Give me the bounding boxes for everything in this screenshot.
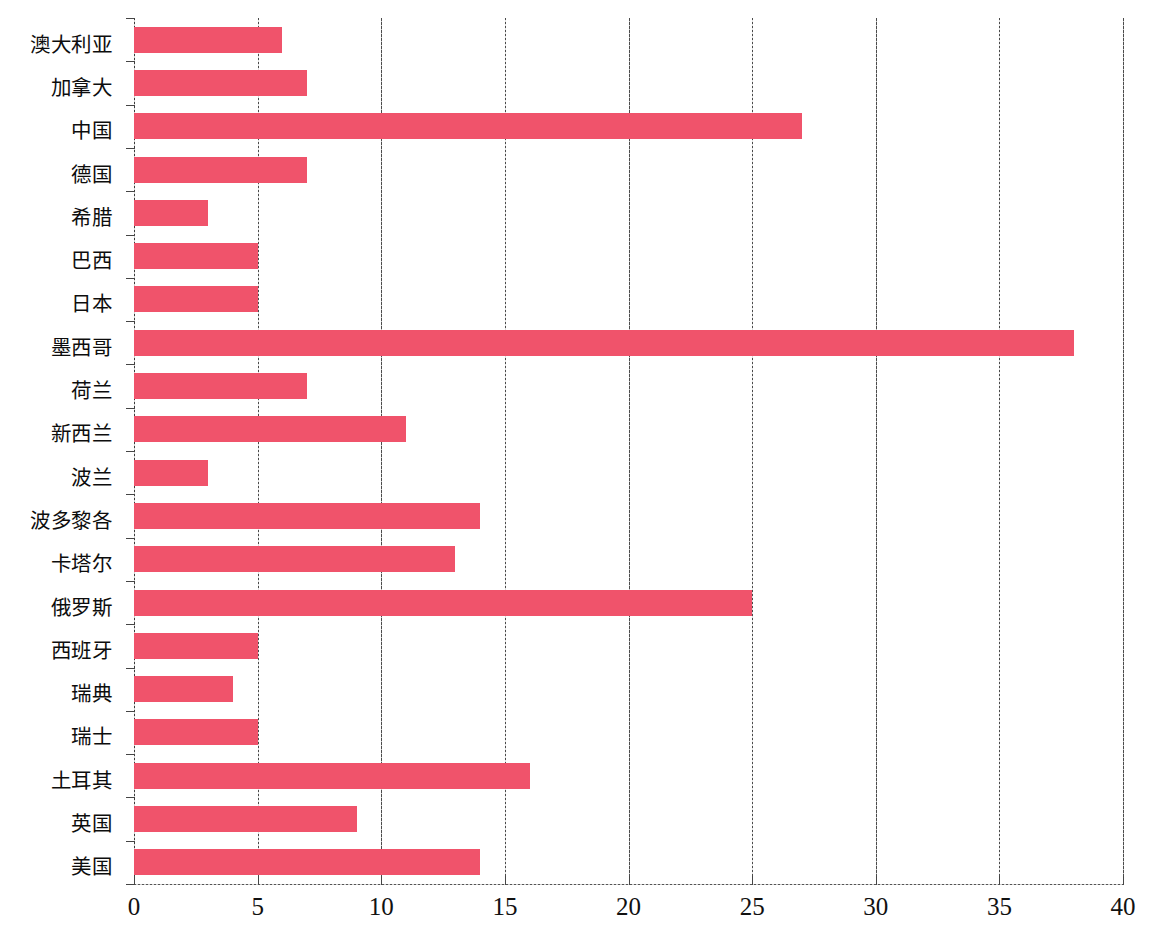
y-tick (126, 494, 135, 495)
y-tick (126, 364, 135, 365)
y-axis-category-label: 新西兰 (0, 417, 122, 447)
bar (134, 286, 258, 312)
y-tick (126, 278, 135, 279)
bar (134, 503, 480, 529)
y-axis-category-label: 荷兰 (0, 374, 122, 404)
x-tick-20 (629, 876, 630, 885)
x-tick-25 (752, 876, 753, 885)
y-tick (126, 841, 135, 842)
bar (134, 416, 406, 442)
gridline-10 (381, 18, 382, 884)
x-axis-tick-label: 30 (846, 893, 906, 921)
bar (134, 27, 282, 53)
x-axis-tick-label: 5 (228, 893, 288, 921)
gridline-35 (999, 18, 1000, 884)
y-tick (126, 538, 135, 539)
y-tick (126, 754, 135, 755)
gridline-40 (1123, 18, 1124, 884)
y-axis-category-label: 澳大利亚 (0, 28, 122, 58)
gridline-25 (752, 18, 753, 884)
y-tick (126, 148, 135, 149)
x-tick-0 (134, 876, 135, 885)
y-tick (126, 668, 135, 669)
bar (134, 676, 233, 702)
y-axis-category-label: 土耳其 (0, 764, 122, 794)
x-axis-tick-label: 20 (599, 893, 659, 921)
bar (134, 330, 1074, 356)
y-axis-category-label: 美国 (0, 850, 122, 880)
plot-area (134, 18, 1123, 884)
y-axis-category-label: 希腊 (0, 201, 122, 231)
x-axis-tick-label: 35 (969, 893, 1029, 921)
y-tick (126, 235, 135, 236)
x-axis-tick-label: 10 (351, 893, 411, 921)
y-tick (126, 105, 135, 106)
x-tick-15 (505, 876, 506, 885)
y-axis-category-label: 加拿大 (0, 71, 122, 101)
y-axis-category-label: 墨西哥 (0, 331, 122, 361)
y-tick (126, 18, 135, 19)
x-tick-30 (876, 876, 877, 885)
gridline-5 (258, 18, 259, 884)
x-tick-5 (258, 876, 259, 885)
bar-chart: 澳大利亚加拿大中国德国希腊巴西日本墨西哥荷兰新西兰波兰波多黎各卡塔尔俄罗斯西班牙… (0, 0, 1153, 933)
bar (134, 70, 307, 96)
y-tick (126, 711, 135, 712)
y-axis-category-label: 西班牙 (0, 634, 122, 664)
y-axis-category-label: 日本 (0, 287, 122, 317)
y-tick (126, 451, 135, 452)
bar (134, 373, 307, 399)
y-axis-category-label: 英国 (0, 807, 122, 837)
gridline-20 (629, 18, 630, 884)
y-axis-category-label: 瑞士 (0, 720, 122, 750)
y-tick (126, 191, 135, 192)
y-axis-category-label: 中国 (0, 114, 122, 144)
y-axis-category-label: 瑞典 (0, 677, 122, 707)
x-axis-tick-label: 40 (1093, 893, 1153, 921)
y-tick (126, 408, 135, 409)
y-tick (126, 797, 135, 798)
bar (134, 719, 258, 745)
x-tick-40 (1123, 876, 1124, 885)
y-axis-category-label: 波多黎各 (0, 504, 122, 534)
y-axis-category-label: 巴西 (0, 244, 122, 274)
y-tick (126, 624, 135, 625)
y-axis-category-label: 俄罗斯 (0, 591, 122, 621)
x-tick-35 (999, 876, 1000, 885)
y-tick (126, 581, 135, 582)
bar (134, 849, 480, 875)
bar (134, 460, 208, 486)
bar (134, 763, 530, 789)
y-axis-category-label: 卡塔尔 (0, 547, 122, 577)
x-tick-10 (381, 876, 382, 885)
bar (134, 546, 455, 572)
bar (134, 157, 307, 183)
x-axis-tick-label: 15 (475, 893, 535, 921)
y-axis-category-label: 德国 (0, 158, 122, 188)
bar (134, 590, 752, 616)
bar (134, 633, 258, 659)
y-tick (126, 321, 135, 322)
gridline-30 (876, 18, 877, 884)
bar (134, 806, 357, 832)
x-axis-tick-label: 0 (104, 893, 164, 921)
x-axis-tick-label: 25 (722, 893, 782, 921)
bar (134, 113, 802, 139)
bar (134, 243, 258, 269)
y-tick (126, 61, 135, 62)
gridline-15 (505, 18, 506, 884)
bar (134, 200, 208, 226)
y-axis-category-label: 波兰 (0, 461, 122, 491)
